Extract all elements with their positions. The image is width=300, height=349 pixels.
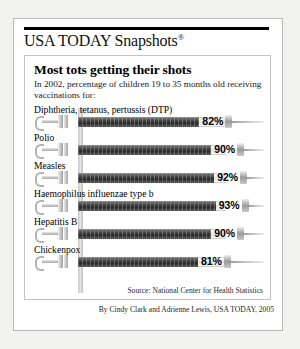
syringe-bar: 90%: [34, 226, 266, 241]
chart-source: Source: National Center for Health Stati…: [127, 286, 263, 295]
chart-value-label: 82%: [202, 115, 223, 127]
syringe-plunger-rod-icon: [42, 204, 59, 207]
syringe-hub-icon: [237, 143, 244, 156]
syringe-plunger-rod-icon: [42, 232, 59, 235]
syringe-bar: 81%: [34, 254, 266, 269]
brand-rule: [24, 27, 269, 30]
syringe-flange-icon: [58, 199, 63, 212]
syringe-plunger-icon: [35, 256, 44, 271]
syringe-plunger-rod-icon: [42, 176, 59, 179]
syringe-flange-icon: [58, 171, 63, 184]
chart-value-label: 90%: [214, 143, 235, 155]
syringe-bar: 90%: [34, 142, 266, 157]
syringe-barrel-fill: [78, 117, 199, 127]
syringe-needle-icon: [244, 233, 264, 235]
syringe-needle-icon: [247, 177, 264, 179]
syringe-plunger-icon: [35, 116, 44, 131]
syringe-flange-inner-icon: [64, 255, 68, 268]
snapshot-frame: USA TODAY Snapshots® Most tots getting t…: [13, 18, 283, 331]
syringe-hub-icon: [224, 255, 231, 268]
syringe-plunger-icon: [35, 144, 44, 159]
chart-value-label: 81%: [201, 255, 222, 267]
syringe-barrel-fill: [78, 173, 214, 183]
page-title: Most tots getting their shots: [34, 62, 191, 78]
syringe-needle-icon: [231, 261, 264, 263]
syringe-bar: 92%: [34, 170, 266, 185]
syringe-plunger-icon: [35, 228, 44, 243]
syringe-hub-icon: [237, 227, 244, 240]
byline: By Cindy Clark and Adrienne Lewis, USA T…: [14, 305, 274, 314]
chart-row: Measles92%: [25, 160, 271, 188]
syringe-flange-icon: [58, 255, 63, 268]
syringe-flange-inner-icon: [64, 199, 68, 212]
chart-row: Diphtheria, tetanus, pertussis (DTP)82%: [25, 104, 271, 132]
syringe-flange-inner-icon: [64, 171, 68, 184]
syringe-bar: 82%: [34, 114, 266, 129]
syringe-barrel-fill: [78, 201, 216, 211]
syringe-flange-inner-icon: [64, 227, 68, 240]
syringe-needle-icon: [249, 205, 264, 207]
syringe-plunger-icon: [35, 172, 44, 187]
syringe-barrel-fill: [78, 229, 211, 239]
brand-title: USA TODAY Snapshots®: [24, 32, 274, 50]
syringe-plunger-rod-icon: [42, 260, 59, 263]
chart-value-label: 92%: [217, 171, 238, 183]
syringe-hub-icon: [242, 199, 249, 212]
syringe-plunger-rod-icon: [42, 148, 59, 151]
chart-rows: Diphtheria, tetanus, pertussis (DTP)82%P…: [25, 104, 271, 272]
syringe-flange-icon: [58, 227, 63, 240]
syringe-hub-icon: [240, 171, 247, 184]
syringe-needle-icon: [244, 149, 264, 151]
chart-value-label: 90%: [214, 227, 235, 239]
chart-row: Haemophilus influenzae type b93%: [25, 188, 271, 216]
brand-title-text: USA TODAY Snapshots: [24, 32, 178, 49]
syringe-flange-inner-icon: [64, 143, 68, 156]
chart-value-label: 93%: [219, 199, 240, 211]
syringe-flange-inner-icon: [64, 115, 68, 128]
syringe-barrel-fill: [78, 257, 198, 267]
syringe-flange-icon: [58, 143, 63, 156]
syringe-barrel-fill: [78, 145, 211, 155]
chart-row: Polio90%: [25, 132, 271, 160]
syringe-flange-icon: [58, 115, 63, 128]
syringe-hub-icon: [225, 115, 232, 128]
registered-mark-icon: ®: [178, 32, 185, 42]
syringe-bar: 93%: [34, 198, 266, 213]
syringe-plunger-icon: [35, 200, 44, 215]
chart-row: Hepatitis B90%: [25, 216, 271, 244]
syringe-needle-icon: [232, 121, 264, 123]
chart-row: Chickenpox81%: [25, 244, 271, 272]
syringe-plunger-rod-icon: [42, 120, 59, 123]
chart-subtitle: In 2002, percentage of children 19 to 35…: [34, 79, 266, 100]
chart-panel: Most tots getting their shots In 2002, p…: [24, 55, 271, 300]
